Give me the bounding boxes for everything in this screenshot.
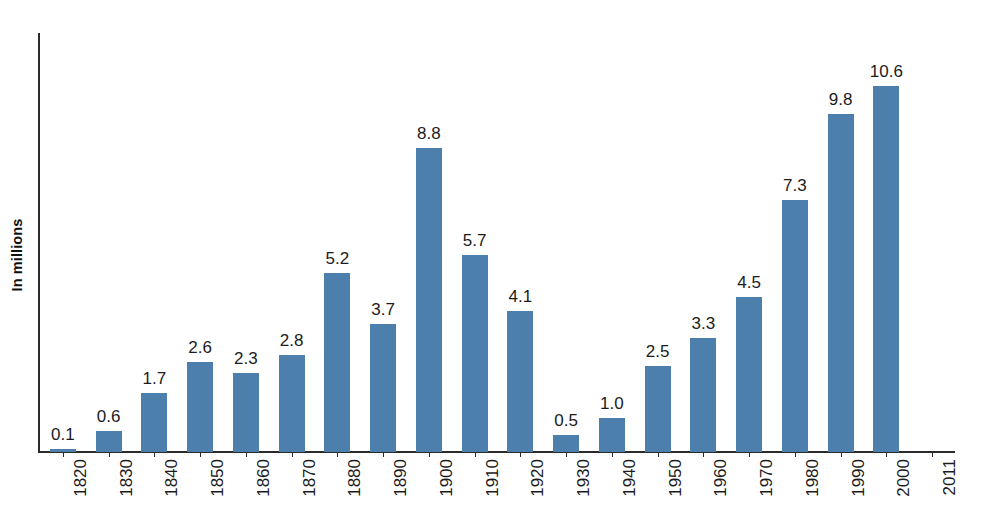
x-axis-tick-mark	[841, 453, 842, 457]
x-axis-tick-label: 1910	[455, 459, 495, 521]
bar-slot: 9.8	[818, 20, 864, 452]
x-axis-tick-mark	[383, 453, 384, 457]
bar-slot: 10.6	[864, 20, 910, 452]
x-axis-tick-mark	[475, 453, 476, 457]
bar[interactable]	[96, 431, 122, 452]
bar-slot: 5.2	[315, 20, 361, 452]
bar-value-label: 0.1	[51, 425, 75, 445]
bar-value-label: 5.7	[463, 231, 487, 251]
x-axis-tick-label: 1940	[592, 459, 632, 521]
y-axis-label: In millions	[0, 170, 34, 340]
bar-value-label: 1.7	[143, 369, 167, 389]
bar[interactable]	[873, 86, 899, 452]
bar-slot: 2.5	[635, 20, 681, 452]
x-axis-tick-mark	[154, 453, 155, 457]
bar[interactable]	[599, 418, 625, 453]
x-axis-tick-label: 1900	[409, 459, 449, 521]
x-axis-tick-label: 1930	[546, 459, 586, 521]
x-axis-tick-label: 1980	[775, 459, 815, 521]
bar[interactable]	[645, 366, 671, 452]
x-axis-tick-mark	[795, 453, 796, 457]
bar[interactable]	[690, 338, 716, 452]
bar-value-label: 0.5	[554, 411, 578, 431]
bar-value-label: 3.7	[371, 300, 395, 320]
x-axis-tick-label: 1870	[272, 459, 312, 521]
bar[interactable]	[187, 362, 213, 452]
x-axis-tick-label: 1890	[363, 459, 403, 521]
x-axis-tick-label: 2000	[866, 459, 906, 521]
bar-value-label: 2.8	[280, 331, 304, 351]
bar[interactable]	[50, 449, 76, 452]
bar-slot: 5.7	[452, 20, 498, 452]
bar-slot: 3.7	[360, 20, 406, 452]
x-axis-tick-label: 1970	[729, 459, 769, 521]
x-axis-tick-mark	[429, 453, 430, 457]
bar-value-label: 2.5	[646, 342, 670, 362]
x-axis-tick-label: 1830	[89, 459, 129, 521]
bar[interactable]	[233, 373, 259, 452]
bar-value-label: 9.8	[829, 90, 853, 110]
x-axis-tick-mark	[612, 453, 613, 457]
x-axis-tick-label: 1820	[43, 459, 83, 521]
plot-area: 0.10.61.72.62.32.85.23.78.85.74.10.51.02…	[40, 20, 955, 452]
bar-slot: 0.5	[543, 20, 589, 452]
bar[interactable]	[507, 311, 533, 452]
x-axis-tick-mark	[200, 453, 201, 457]
x-axis-tick-mark	[886, 453, 887, 457]
x-axis-tick-label: 1880	[317, 459, 357, 521]
bar-slot: 2.8	[269, 20, 315, 452]
bar-value-label: 1.0	[600, 394, 624, 414]
bar-value-label: 2.6	[188, 338, 212, 358]
bar[interactable]	[370, 324, 396, 452]
x-axis-tick-mark	[658, 453, 659, 457]
bar-value-label: 2.3	[234, 349, 258, 369]
x-axis-tick-mark	[932, 453, 933, 457]
x-axis-tick-label: 1920	[500, 459, 540, 521]
bar-value-label: 0.6	[97, 407, 121, 427]
bar-value-label: 5.2	[326, 249, 350, 269]
x-axis-tick-label: 1950	[638, 459, 678, 521]
x-axis-tick-mark	[520, 453, 521, 457]
bar-slot: 0.6	[86, 20, 132, 452]
bar-slot: 2.6	[177, 20, 223, 452]
bar[interactable]	[736, 297, 762, 452]
x-axis-tick-label-text: 2011	[940, 459, 960, 496]
bar[interactable]	[416, 148, 442, 452]
bar[interactable]	[553, 435, 579, 452]
x-axis-tick-mark	[703, 453, 704, 457]
x-axis-tick-mark	[246, 453, 247, 457]
bar-slot: 0.1	[40, 20, 86, 452]
bar[interactable]	[324, 273, 350, 452]
bar-slot: 1.0	[589, 20, 635, 452]
x-axis-tick-mark	[63, 453, 64, 457]
x-axis-tick-mark	[292, 453, 293, 457]
x-axis-tick-label: 2011	[912, 459, 952, 521]
bar-value-label: 3.3	[692, 314, 716, 334]
bar[interactable]	[141, 393, 167, 452]
bar-slot: 4.5	[726, 20, 772, 452]
x-axis-tick-mark	[337, 453, 338, 457]
bar-value-label: 4.1	[509, 287, 533, 307]
bar[interactable]	[782, 200, 808, 452]
bar-slot: 3.3	[681, 20, 727, 452]
x-axis-tick-mark	[749, 453, 750, 457]
x-axis-tick-label: 1990	[821, 459, 861, 521]
x-axis-tick-label: 1840	[134, 459, 174, 521]
bar-value-label: 7.3	[783, 176, 807, 196]
bar-value-label: 10.6	[870, 62, 903, 82]
bar-slot: 7.3	[772, 20, 818, 452]
bar-slot: 8.8	[406, 20, 452, 452]
x-axis-tick-mark	[566, 453, 567, 457]
bar-slot: 4.1	[498, 20, 544, 452]
x-axis-tick-label: 1960	[683, 459, 723, 521]
bar[interactable]	[462, 255, 488, 452]
bar-slot: 2.3	[223, 20, 269, 452]
bar[interactable]	[279, 355, 305, 452]
bar-value-label: 4.5	[737, 273, 761, 293]
bar[interactable]	[828, 114, 854, 452]
x-axis-tick-label: 1860	[226, 459, 266, 521]
x-axis-tick-mark	[109, 453, 110, 457]
y-axis-label-text: In millions	[9, 219, 25, 292]
bar-chart: In millions 0.10.61.72.62.32.85.23.78.85…	[0, 0, 983, 523]
x-axis-tick-label: 1850	[180, 459, 220, 521]
